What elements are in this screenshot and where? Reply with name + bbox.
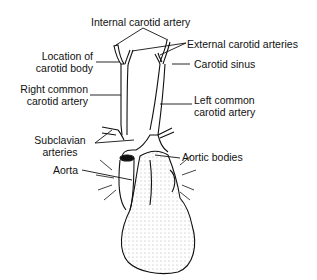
right-common-carotid	[121, 64, 128, 135]
label-carotid-body-line1: Location of	[30, 50, 93, 62]
label-left-common-line2: carotid artery	[194, 106, 255, 118]
right-internal-carotid	[114, 45, 124, 64]
label-carotid-body-line2: carotid body	[20, 62, 93, 74]
subclavian-left	[158, 128, 174, 138]
label-left-common-line1: Left common	[194, 94, 255, 106]
label-aortic-bodies: Aortic bodies	[182, 151, 243, 163]
label-right-common-line1: Right common	[10, 83, 88, 95]
label-internal-carotid: Internal carotid artery	[91, 16, 190, 28]
left-common-carotid	[150, 64, 165, 135]
label-subclavian-line1: Subclavian	[30, 134, 90, 146]
label-aorta: Aorta	[53, 164, 78, 176]
heart	[121, 151, 194, 273]
label-subclavian-line2: arteries	[30, 146, 90, 158]
subclavian-right	[102, 127, 124, 140]
label-external-carotid: External carotid arteries	[187, 38, 298, 50]
label-right-common-line2: carotid artery	[10, 95, 88, 107]
label-carotid-sinus: Carotid sinus	[194, 58, 255, 70]
